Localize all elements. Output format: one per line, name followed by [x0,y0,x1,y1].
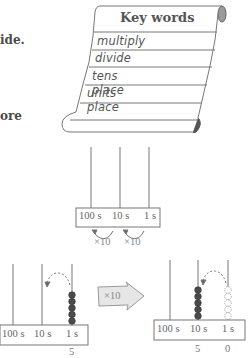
value-units: 0 [225,343,230,354]
value-units: 5 [69,346,74,357]
key-word-item: units place [87,86,119,114]
place-label-tens: 10 s [190,323,207,334]
times-ten-label: ×10 [94,236,110,247]
beads-after-tens [195,287,202,320]
key-words-title: Key words [120,10,194,25]
times-ten-label: ×10 [124,236,140,247]
place-label-hundreds: 100 s [157,323,179,334]
transform-arrow-label: ×10 [104,290,120,301]
key-word-item: divide [95,51,131,65]
place-label-hundreds: 100 s [2,328,24,339]
abacus-top [76,147,160,239]
place-label-tens: 10 s [112,210,129,221]
beads-before [69,292,76,325]
place-label-units: 1 s [222,323,234,334]
beads-after-units-empty [225,287,232,320]
place-label-hundreds: 100 s [79,210,101,221]
place-label-units: 1 s [66,328,78,339]
value-tens: 5 [195,343,200,354]
place-label-tens: 10 s [34,328,51,339]
place-label-units: 1 s [144,210,156,221]
key-word-item: multiply [97,34,145,48]
